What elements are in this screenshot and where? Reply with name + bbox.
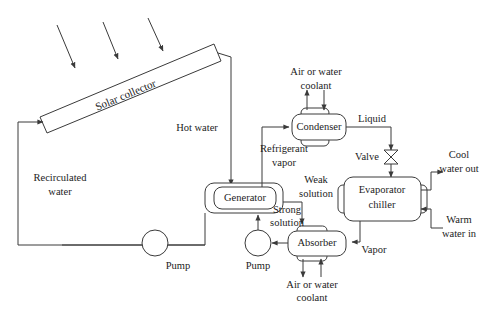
- evaporator-chiller-label-line1: Evaporator: [359, 184, 406, 195]
- absorber-coolant-label-line1: Air or water: [286, 279, 338, 290]
- absorber-coolant-label-line2: coolant: [297, 292, 328, 303]
- valve-label: Valve: [355, 151, 379, 162]
- condenser-coolant-arrows: [307, 90, 324, 110]
- pump-circle-icon-solution[interactable]: [245, 230, 271, 256]
- vapor-label: Vapor: [361, 244, 387, 255]
- weak-solution-label-line1: Weak: [304, 174, 328, 185]
- process-flow-diagram: Solar collector Condenser Generator Abso…: [0, 0, 486, 311]
- warm-water-in-label-line1: Warm: [446, 214, 471, 225]
- hot-water-label: Hot water: [176, 122, 218, 133]
- sun-ray-arrow-icon-2: [103, 22, 118, 59]
- hot-water-line: [218, 53, 231, 185]
- strong-solution-label-line2: solution: [270, 217, 305, 228]
- recirculated-water-label-line1: Recirculated: [33, 172, 87, 183]
- condenser-coolant-label-line1: Air or water: [290, 66, 342, 77]
- generator-return-line: [62, 213, 205, 245]
- refrigerant-vapor-label-line2: vapor: [272, 157, 296, 168]
- evaporator-chiller-label-line2: chiller: [369, 199, 396, 210]
- strong-solution-label-line1: Strong: [273, 204, 302, 215]
- refrigerant-vapor-label-line1: Refrigerant: [260, 143, 308, 154]
- bowtie-valve-icon[interactable]: [384, 150, 398, 164]
- warm-water-in-label-line2: water in: [442, 228, 477, 239]
- condenser-coolant-label-line2: coolant: [301, 80, 332, 91]
- schematic-canvas: Solar collector Condenser Generator Abso…: [0, 0, 486, 311]
- cool-water-out-label-line2: water out: [439, 163, 478, 174]
- generator-label: Generator: [224, 192, 266, 203]
- recirculated-water-line: [18, 122, 205, 245]
- absorber-coolant-arrows: [303, 259, 321, 277]
- weak-solution-label-line2: solution: [299, 188, 334, 199]
- sun-ray-arrow-icon-3: [148, 18, 163, 51]
- liquid-label: Liquid: [358, 113, 387, 124]
- cool-water-out-label-line1: Cool: [449, 149, 470, 160]
- condenser-label: Condenser: [297, 121, 342, 132]
- pump-water-label: Pump: [166, 260, 191, 271]
- pump-solution-label: Pump: [246, 260, 271, 271]
- sun-ray-arrow-icon-1: [57, 25, 75, 68]
- recirculated-water-label-line2: water: [48, 186, 72, 197]
- absorber-label: Absorber: [297, 237, 337, 248]
- vapor-line: [352, 221, 360, 242]
- pump-circle-icon-water[interactable]: [142, 230, 168, 256]
